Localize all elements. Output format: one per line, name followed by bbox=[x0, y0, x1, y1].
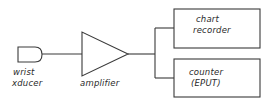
chart-recorder-label: chart recorder bbox=[193, 14, 231, 36]
transducer-shape bbox=[18, 47, 42, 62]
counter-label-line2: (EPUT) bbox=[189, 78, 223, 89]
amplifier-triangle bbox=[82, 32, 128, 76]
transducer-label: wrist xducer bbox=[12, 67, 42, 89]
counter-label-line1: counter bbox=[189, 67, 223, 78]
transducer-label-line2: xducer bbox=[12, 78, 42, 89]
block-diagram: wrist xducer amplifier chart recorder co… bbox=[0, 0, 270, 105]
chart-recorder-label-line1: chart bbox=[193, 14, 231, 25]
chart-recorder-label-line2: recorder bbox=[193, 25, 231, 36]
counter-label: counter (EPUT) bbox=[189, 67, 223, 89]
amplifier-label: amplifier bbox=[80, 78, 120, 89]
transducer-label-line1: wrist bbox=[12, 67, 42, 78]
